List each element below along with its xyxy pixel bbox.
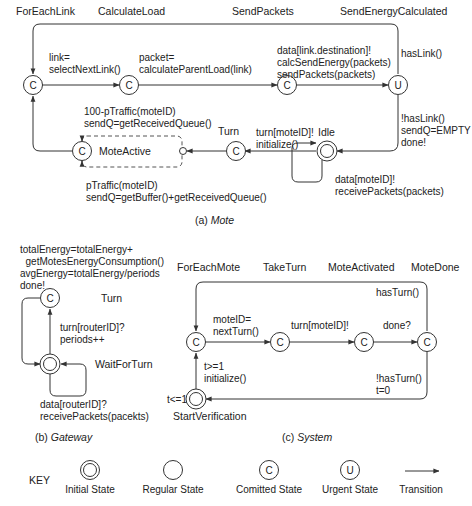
label-idle-receive: data[moteID]! receivePackets(packets): [335, 174, 444, 197]
svg-text:totalEnergy=totalEnergy+: totalEnergy=totalEnergy+: [20, 244, 133, 255]
state-send-energy-calculated: U: [389, 76, 408, 95]
committed-icon: C: [46, 293, 53, 304]
svg-text:turn[moteID]!: turn[moteID]!: [291, 320, 349, 331]
label-send: data[link.destination]! calcSendEnergy(p…: [277, 45, 391, 80]
svg-text:!hasLink(): !hasLink(): [401, 113, 445, 124]
svg-text:sendPackets(packets): sendPackets(packets): [277, 69, 375, 80]
svg-text:t>=1: t>=1: [204, 361, 224, 372]
svg-text:periods++: periods++: [60, 334, 105, 345]
state-label-wait-for-turn: WaitForTurn: [95, 358, 153, 370]
state-label-send-packets: SendPackets: [232, 5, 294, 17]
state-mote-done: C: [418, 333, 437, 352]
legend-item-urgent-state: U Urgent State: [322, 461, 379, 496]
label-has-link: hasLink(): [401, 48, 442, 59]
urgent-icon: U: [394, 80, 401, 91]
label-no-link: !hasLink() sendQ=EMPTY done!: [401, 113, 471, 148]
svg-text:receivePackets(packets): receivePackets(packets): [335, 186, 444, 197]
svg-text:calcSendEnergy(packets): calcSendEnergy(packets): [277, 57, 391, 68]
legend-item-regular-state: Regular State: [142, 461, 204, 496]
label-no-turn: !hasTurn() t=0: [376, 373, 422, 396]
state-label-for-each-mote: ForEachMote: [177, 261, 240, 273]
state-label-take-turn: TakeTurn: [263, 261, 307, 273]
svg-text:packet=: packet=: [139, 52, 174, 63]
state-label-start-verification: StartVerification: [173, 410, 247, 422]
label-turn-init: turn[moteID]! initialize(): [256, 127, 314, 150]
label-next-turn: moteID= nextTurn(): [213, 314, 259, 337]
label-gateway-energy: totalEnergy=totalEnergy+ getMotesEnergyC…: [20, 244, 164, 291]
svg-text:Comitted State: Comitted State: [236, 484, 303, 495]
svg-text:done?: done?: [383, 320, 411, 331]
system-automaton: ForEachMote TakeTurn MoteActivated MoteD…: [167, 261, 460, 443]
svg-text:sendQ=getBuffer()+getReceivedQ: sendQ=getBuffer()+getReceivedQueue(): [86, 192, 266, 203]
mote-automaton: ForEachLink CalculateLoad SendPackets Se…: [16, 5, 471, 226]
state-take-turn: C: [271, 333, 290, 352]
svg-text:hasTurn(): hasTurn(): [376, 287, 419, 298]
committed-icon: C: [78, 146, 85, 157]
state-mote-active: C: [73, 142, 92, 161]
state-start-verification: [186, 389, 206, 409]
state-calculate-load: C: [120, 76, 139, 95]
committed-icon: C: [276, 337, 283, 348]
legend-title: KEY: [29, 474, 50, 486]
label-traffic-buffer: pTraffic(moteID) sendQ=getBuffer()+getRe…: [86, 180, 266, 203]
svg-text:U: U: [346, 465, 353, 476]
state-turn: C: [227, 142, 246, 161]
svg-text:calculateParentLoad(link): calculateParentLoad(link): [139, 64, 252, 75]
svg-text:hasLink(): hasLink(): [401, 48, 442, 59]
label-traffic-received: 100-pTraffic(moteID) sendQ=getReceivedQu…: [84, 106, 212, 129]
svg-text:data[routerID]?: data[routerID]?: [40, 399, 107, 410]
timed-automata-diagram: ForEachLink CalculateLoad SendPackets Se…: [0, 0, 472, 506]
state-for-each-mote: C: [187, 333, 206, 352]
svg-text:initialize(): initialize(): [256, 139, 298, 150]
label-gateway-receive: data[routerID]? receivePackets(pacekts): [40, 399, 149, 422]
svg-text:Urgent State: Urgent State: [322, 484, 379, 495]
svg-text:nextTurn(): nextTurn(): [213, 326, 259, 337]
state-mote-activated: C: [355, 333, 374, 352]
state-label-mote-done: MoteDone: [411, 261, 460, 273]
svg-text:initialize(): initialize(): [204, 373, 246, 384]
legend-item-initial-state: Initial State: [65, 461, 115, 496]
label-has-turn: hasTurn(): [376, 287, 419, 298]
svg-text:moteID=: moteID=: [213, 314, 251, 325]
committed-icon: C: [29, 80, 36, 91]
committed-icon: C: [192, 337, 199, 348]
svg-text:turn[routerID]?: turn[routerID]?: [60, 322, 125, 333]
gateway-automaton: totalEnergy=totalEnergy+ getMotesEnergyC…: [20, 244, 164, 443]
regular-state-icon: [164, 461, 183, 480]
state-label-gateway-turn: Turn: [101, 292, 122, 304]
label-init: t>=1 initialize(): [204, 361, 246, 384]
svg-text:data[moteID]!: data[moteID]!: [335, 174, 395, 185]
svg-text:receivePackets(pacekts): receivePackets(pacekts): [40, 411, 149, 422]
edge-mote-active-to-for-each-link: [33, 96, 72, 151]
state-label-send-energy-calculated: SendEnergyCalculated: [340, 5, 448, 17]
svg-text:getMotesEnergyConsumption(): getMotesEnergyConsumption(): [20, 256, 164, 267]
caption-mote: (a) Mote: [195, 214, 234, 226]
svg-text:C: C: [265, 465, 272, 476]
label-gateway-turn: turn[routerID]? periods++: [60, 322, 125, 345]
svg-text:pTraffic(moteID): pTraffic(moteID): [86, 180, 158, 191]
state-wait-for-turn: [40, 354, 60, 374]
label-done: done?: [383, 320, 411, 331]
state-label-mote-active: MoteActive: [99, 145, 151, 157]
state-idle: [317, 141, 337, 161]
svg-text:turn[moteID]!: turn[moteID]!: [256, 127, 314, 138]
svg-text:Transition: Transition: [399, 484, 443, 495]
label-invariant: t<=1: [167, 394, 187, 405]
legend-item-committed-state: C Comitted State: [236, 461, 303, 496]
committed-icon: C: [360, 337, 367, 348]
label-select-link: link= selectNextLink(): [49, 52, 121, 75]
mote-active-entry-port: [180, 148, 187, 155]
svg-text:avgEnergy=totalEnergy/periods: avgEnergy=totalEnergy/periods: [20, 268, 160, 279]
svg-text:!hasTurn(): !hasTurn(): [376, 373, 422, 384]
state-label-idle: Idle: [318, 126, 335, 138]
edge-no-link: [337, 95, 398, 151]
committed-icon: C: [232, 146, 239, 157]
state-label-turn: Turn: [218, 125, 239, 137]
svg-text:data[link.destination]!: data[link.destination]!: [277, 45, 371, 56]
svg-text:done!: done!: [401, 137, 426, 148]
label-calc-load: packet= calculateParentLoad(link): [139, 52, 252, 75]
label-system-turn: turn[moteID]!: [291, 320, 349, 331]
state-label-for-each-link: ForEachLink: [16, 5, 76, 17]
committed-icon: C: [283, 80, 290, 91]
legend-item-transition: Transition: [399, 471, 443, 495]
